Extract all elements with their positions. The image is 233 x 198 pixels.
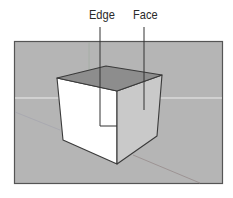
- viewport-canvas: [0, 0, 233, 198]
- face-callout-label: Face: [133, 8, 158, 21]
- cube-diagram: Edge Face: [0, 0, 233, 198]
- edge-callout-label: Edge: [89, 8, 115, 21]
